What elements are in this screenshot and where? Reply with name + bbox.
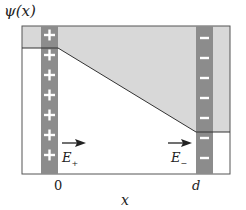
arrow-right-icon (168, 139, 192, 147)
x-tick-d: d (192, 178, 200, 193)
x-axis-label: x (121, 192, 129, 208)
negative-plate (196, 26, 213, 174)
potential-diagram (0, 0, 246, 210)
field-label-right: E− (171, 150, 187, 168)
x-tick-0: 0 (54, 178, 62, 193)
field-label-left: E+ (62, 150, 78, 168)
y-axis-label: ψ(x) (4, 2, 36, 20)
arrow-right-icon (62, 139, 86, 147)
